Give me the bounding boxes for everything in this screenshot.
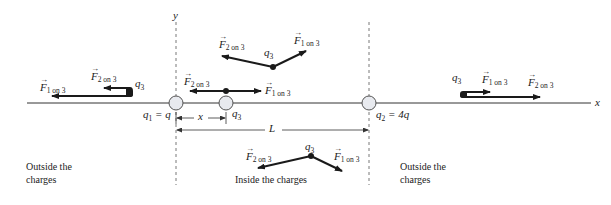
q3-above-dot [270, 64, 276, 70]
distance-L-label: L [269, 122, 275, 134]
q3-right-label: q3 [452, 71, 461, 86]
q1-label: q1 = q [143, 108, 171, 123]
force-f1-left-label: F1 on 3 [40, 81, 65, 97]
q3-above-label: q3 [264, 46, 273, 61]
q3-inside-dot [223, 88, 229, 94]
region-middle-label: Inside the charges [235, 173, 307, 186]
region-right-label: Outside the charges [400, 160, 446, 186]
force-f2-left-label: F2 on 3 [91, 70, 116, 86]
charge-q3-inside [219, 96, 233, 110]
q3-inside-axis-label: q3 [232, 107, 241, 122]
q2-label: q2 = 4q [376, 108, 409, 123]
region-left-line1: Outside the [26, 160, 72, 173]
force-f1-above-label: F1 on 3 [294, 34, 319, 50]
force-f2-inside-label: F2 on 3 [184, 75, 209, 91]
region-right-line2: charges [400, 173, 446, 186]
region-left-line2: charges [26, 173, 72, 186]
region-right-line1: Outside the [400, 160, 446, 173]
charge-q2 [362, 96, 376, 110]
force-f1-right-label: F1 on 3 [482, 73, 507, 89]
force-f1-inside-label: F1 on 3 [265, 84, 290, 100]
q3-left-label: q3 [135, 77, 144, 92]
force-f2-right-label: F2 on 3 [528, 76, 553, 92]
q3-below-label: q3 [305, 140, 314, 155]
force-f2-below-label: F2 on 3 [246, 150, 271, 166]
force-f2-above-label: F2 on 3 [219, 38, 244, 54]
distance-x-label: x [198, 110, 203, 122]
y-axis-label: y [173, 9, 178, 21]
region-left-label: Outside the charges [26, 160, 72, 186]
x-axis-label: x [595, 96, 600, 108]
force-f1-above-arrow [273, 51, 306, 67]
charge-q1 [169, 96, 183, 110]
force-f1-below-label: F1 on 3 [334, 150, 359, 166]
